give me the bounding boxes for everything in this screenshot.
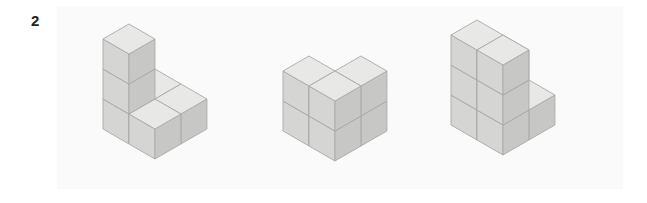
- figure-panel: [57, 6, 623, 189]
- block-figures-page: 2: [0, 0, 647, 203]
- figure-1: [101, 22, 209, 161]
- question-number: 2: [31, 13, 39, 28]
- figure-3: [449, 18, 557, 157]
- figure-2: [281, 54, 389, 163]
- figure-stage: [57, 6, 623, 189]
